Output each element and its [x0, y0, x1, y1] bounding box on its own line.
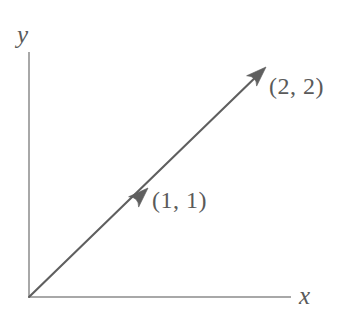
- arrowhead-point-one: [129, 183, 153, 207]
- vector-diagram-figure: y x (2, 2) (1, 1): [0, 0, 345, 313]
- y-axis-label: y: [17, 22, 28, 47]
- x-axis-label: x: [299, 283, 310, 308]
- point-label-one-one: (1, 1): [152, 188, 207, 212]
- vector-plot-canvas: [0, 0, 345, 313]
- vector-shaft: [29, 71, 262, 297]
- point-label-two-two: (2, 2): [269, 74, 324, 98]
